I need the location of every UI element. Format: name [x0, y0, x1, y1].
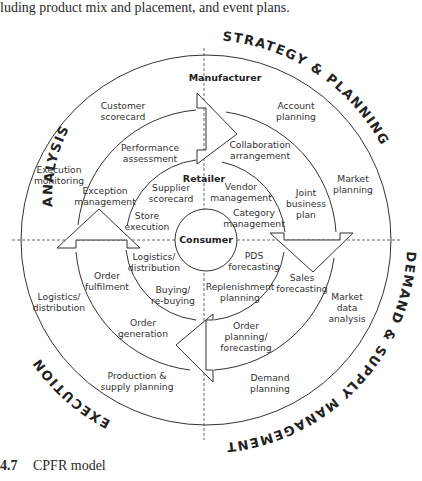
role-consumer: Consumer: [179, 234, 233, 245]
figure-caption: 4.7 CPFR model: [0, 458, 106, 474]
svg-text:Buying/re-buying: Buying/re-buying: [151, 284, 195, 306]
svg-text:Orderfulfilment: Orderfulfilment: [85, 270, 129, 292]
role-manufacturer: Manufacturer: [189, 72, 262, 83]
svg-text:Production &supply planning: Production &supply planning: [100, 370, 173, 392]
svg-text:Demandplanning: Demandplanning: [250, 372, 290, 394]
svg-text:Supplierscorecard: Supplierscorecard: [149, 182, 194, 204]
svg-text:Categorymanagement: Categorymanagement: [223, 207, 285, 229]
svg-text:Logistics/distribution: Logistics/distribution: [128, 251, 181, 273]
svg-text:Executionmonitoring: Executionmonitoring: [34, 164, 84, 186]
svg-text:Ordergeneration: Ordergeneration: [118, 317, 168, 339]
svg-text:Performanceassessment: Performanceassessment: [121, 142, 180, 164]
svg-text:Collaborationarrangement: Collaborationarrangement: [229, 139, 290, 161]
svg-text:PDSforecasting: PDSforecasting: [228, 250, 279, 272]
svg-text:Marketplanning: Marketplanning: [333, 173, 373, 195]
svg-text:Marketdataanalysis: Marketdataanalysis: [328, 291, 365, 324]
arrow-bottom: [176, 314, 213, 382]
svg-text:Salesforecasting: Salesforecasting: [276, 272, 327, 294]
figure-title: CPFR model: [33, 458, 106, 473]
arrow-right: [270, 233, 353, 272]
svg-text:Orderplanning/forecasting: Orderplanning/forecasting: [220, 320, 271, 353]
svg-text:Exceptionmanagement: Exceptionmanagement: [74, 185, 136, 207]
svg-text:Logistics/distribution: Logistics/distribution: [33, 291, 86, 313]
svg-text:Replenishmentplanning: Replenishmentplanning: [206, 281, 275, 303]
cpfr-diagram: Manufacturer Retailer Consumer ANALYSIS …: [0, 0, 422, 481]
svg-text:Jointbusinessplan: Jointbusinessplan: [286, 187, 326, 220]
quadrant-strategy-planning: STRATEGY & PLANNING: [222, 29, 393, 148]
svg-text:Customerscorecard: Customerscorecard: [101, 100, 146, 122]
figure-number: 4.7: [0, 458, 18, 473]
svg-text:Storeexecution: Storeexecution: [125, 210, 170, 232]
svg-text:Accountplanning: Accountplanning: [276, 100, 316, 122]
